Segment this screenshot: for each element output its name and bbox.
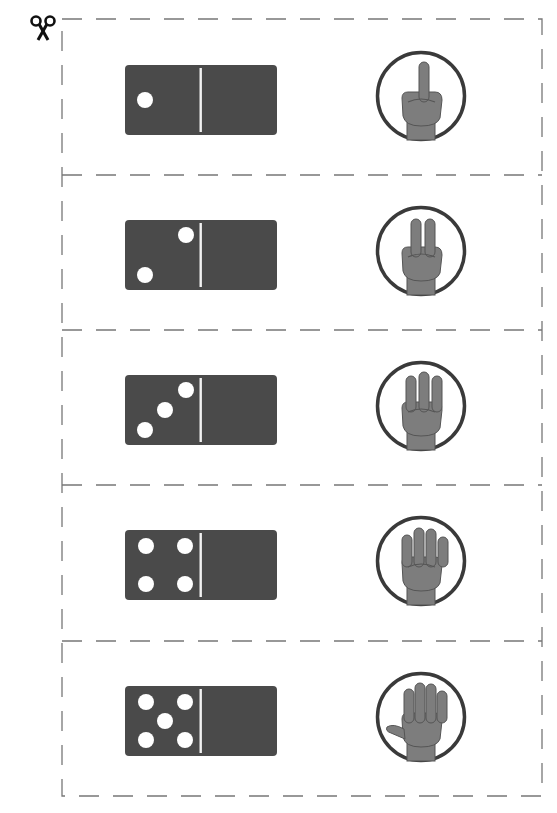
one-finger-hand-icon <box>375 50 467 142</box>
card-3 <box>61 330 543 485</box>
domino-center-line <box>200 689 202 753</box>
domino-3-icon <box>124 374 278 446</box>
three-fingers-hand-icon <box>375 360 467 452</box>
scissors-icon <box>28 13 58 43</box>
card-5 <box>61 641 543 796</box>
domino-2-icon <box>124 219 278 291</box>
domino-center-line <box>200 378 202 442</box>
four-fingers-hand-icon <box>375 515 467 607</box>
domino-pip <box>178 227 194 243</box>
domino-pip <box>137 267 153 283</box>
domino-1-icon <box>124 64 278 136</box>
domino-pip <box>138 576 154 592</box>
domino-pip <box>138 694 154 710</box>
domino-center-line <box>200 533 202 597</box>
domino-5-icon <box>124 685 278 757</box>
domino-pip <box>177 538 193 554</box>
domino-pip <box>137 422 153 438</box>
card-1 <box>61 18 543 173</box>
domino-pip <box>137 92 153 108</box>
domino-pip <box>177 732 193 748</box>
domino-pip <box>157 402 173 418</box>
domino-pip <box>177 694 193 710</box>
domino-center-line <box>200 223 202 287</box>
card-4 <box>61 485 543 640</box>
domino-pip <box>157 713 173 729</box>
domino-4-icon <box>124 529 278 601</box>
two-fingers-hand-icon <box>375 205 467 297</box>
five-fingers-hand-icon <box>375 671 467 763</box>
cut-out-sheet <box>61 18 543 797</box>
domino-pip <box>177 576 193 592</box>
domino-pip <box>178 382 194 398</box>
domino-center-line <box>200 68 202 132</box>
domino-pip <box>138 538 154 554</box>
card-2 <box>61 175 543 330</box>
domino-pip <box>138 732 154 748</box>
